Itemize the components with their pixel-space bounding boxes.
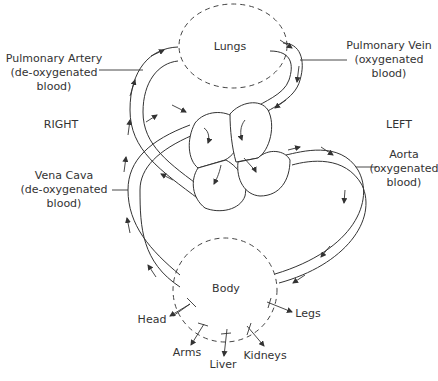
pulmonary-vein-label: Pulmonary Vein (oxygenated blood) (346, 39, 432, 80)
svg-text:Pulmonary Artery: Pulmonary Artery (6, 52, 103, 65)
svg-text:blood): blood) (372, 67, 407, 80)
svg-text:Vena Cava: Vena Cava (35, 169, 93, 182)
lungs-label: Lungs (214, 40, 247, 53)
svg-text:blood): blood) (387, 176, 422, 189)
vena-cava-vessel (128, 125, 193, 287)
pulmonary-artery-label: Pulmonary Artery (de-oxygenated blood) (6, 52, 103, 93)
aorta-label: Aorta (oxygenated blood) (369, 148, 438, 189)
head-label: Head (138, 313, 167, 326)
vena-cava-label: Vena Cava (de-oxygenated blood) (20, 169, 107, 210)
svg-text:(de-oxygenated: (de-oxygenated (10, 66, 97, 79)
heart (189, 103, 290, 211)
svg-text:Pulmonary Vein: Pulmonary Vein (346, 39, 432, 52)
svg-text:Aorta: Aorta (389, 148, 419, 161)
circulation-diagram: Lungs Body RIGHT LEFT Pulmonary Artery (… (0, 0, 438, 381)
right-side-label: RIGHT (44, 118, 79, 131)
svg-text:(oxygenated: (oxygenated (369, 162, 438, 175)
svg-text:blood): blood) (47, 197, 82, 210)
body-label: Body (212, 282, 240, 295)
svg-text:(oxygenated: (oxygenated (354, 53, 423, 66)
kidneys-label: Kidneys (243, 349, 287, 362)
legs-label: Legs (295, 307, 321, 320)
svg-text:blood): blood) (37, 80, 72, 93)
left-side-label: LEFT (386, 118, 412, 131)
svg-text:(de-oxygenated: (de-oxygenated (20, 183, 107, 196)
arms-label: Arms (173, 346, 202, 359)
liver-label: Liver (210, 358, 237, 371)
